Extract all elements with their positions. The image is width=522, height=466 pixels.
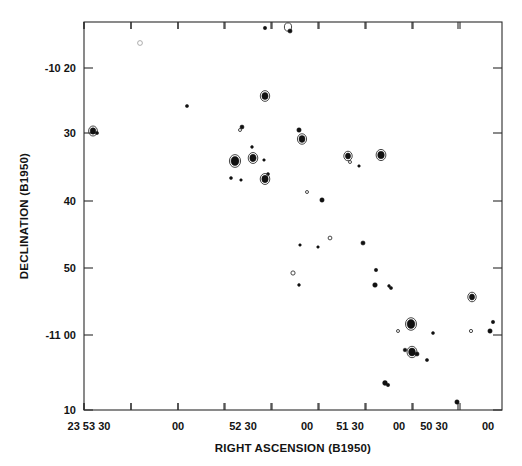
figure-background (0, 0, 522, 466)
source-marker (388, 285, 391, 288)
x-axis-title: RIGHT ASCENSION (B1950) (215, 442, 371, 454)
source-marker (95, 131, 98, 134)
source-marker (432, 332, 435, 335)
x-tick-label: 00 (482, 420, 494, 432)
x-tick-label: 00 (393, 420, 405, 432)
x-tick-label: 00 (172, 420, 184, 432)
source-marker (415, 352, 419, 356)
source-marker (299, 244, 302, 247)
source-marker (409, 348, 416, 356)
source-marker (317, 246, 320, 249)
source-marker (263, 159, 266, 162)
source-marker (298, 284, 301, 287)
x-tick-label: 50 30 (420, 420, 448, 432)
source-marker (469, 294, 474, 300)
y-tick-label: -10 20 (45, 62, 76, 74)
source-marker (491, 320, 494, 323)
source-marker (231, 156, 239, 165)
source-marker (299, 136, 305, 143)
y-tick-label: -11 00 (45, 329, 76, 341)
source-marker (378, 151, 385, 159)
source-marker (240, 179, 243, 182)
plot-canvas: 23 53 300052 300051 300050 3000 -10 2030… (0, 0, 522, 466)
x-tick-label: 52 30 (229, 420, 257, 432)
y-axis-title: DECLINATION (B1950) (18, 153, 30, 279)
source-marker (288, 29, 292, 33)
source-marker (90, 128, 96, 134)
source-marker (262, 92, 268, 99)
source-marker (345, 153, 350, 159)
y-tick-label: 10 (64, 404, 76, 416)
source-marker (320, 198, 324, 202)
source-marker (230, 177, 233, 180)
source-marker (403, 348, 407, 352)
source-marker (455, 400, 459, 404)
source-marker (374, 268, 377, 271)
y-tick-label: 40 (64, 195, 76, 207)
y-tick-label: 30 (64, 127, 76, 139)
source-marker (250, 154, 256, 161)
y-tick-label: 50 (64, 262, 76, 274)
source-marker (425, 358, 428, 361)
source-marker (488, 329, 492, 333)
source-marker (386, 383, 389, 386)
source-marker (262, 175, 268, 182)
source-marker (251, 146, 254, 149)
x-tick-label: 23 53 30 (68, 420, 111, 432)
source-marker (358, 165, 361, 168)
source-marker (407, 320, 415, 329)
source-marker (373, 283, 378, 288)
source-marker (263, 26, 266, 29)
radio-contour-figure: 23 53 300052 300051 300050 3000 -10 2030… (0, 0, 522, 466)
source-marker (297, 128, 301, 132)
x-tick-label: 51 30 (336, 420, 364, 432)
source-marker (185, 104, 188, 107)
source-marker (361, 241, 365, 245)
x-tick-label: 00 (301, 420, 313, 432)
